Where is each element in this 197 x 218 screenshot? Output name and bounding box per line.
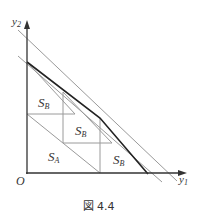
second-line xyxy=(18,56,162,182)
upper-diagonal xyxy=(27,62,75,114)
x-axis-label: y1 xyxy=(179,174,188,187)
region-label-sb-upper: SB xyxy=(38,96,49,111)
region-label-sb-lower: SB xyxy=(113,153,124,168)
y-axis-label: y2 xyxy=(12,16,21,29)
diagram-canvas xyxy=(0,0,197,218)
middle-diagonal xyxy=(63,92,112,143)
region-label-sa: SA xyxy=(48,150,59,165)
figure: y2 y1 O SB SB SA SB 図 4.4 xyxy=(0,0,197,218)
origin-label: O xyxy=(16,175,25,187)
figure-caption: 図 4.4 xyxy=(0,197,197,213)
y-axis-arrow-icon xyxy=(24,20,30,29)
region-label-sb-center: SB xyxy=(75,124,86,139)
